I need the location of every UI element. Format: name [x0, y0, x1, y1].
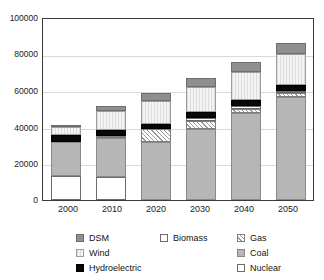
y-axis-tick-label: 60000: [0, 87, 38, 96]
legend-label-dsm: DSM: [89, 233, 109, 243]
bar-2030: [186, 78, 216, 200]
legend-column-1: DSM Wind Hydroelectric: [76, 231, 142, 276]
x-axis-tick-label: 2040: [220, 204, 268, 215]
legend-label-nuclear: Nuclear: [250, 263, 281, 273]
bar-segment-coal: [96, 138, 126, 178]
bar-2050: [276, 43, 306, 200]
legend-item-gas: Gas: [237, 231, 281, 245]
x-axis-tick-label: 2050: [264, 204, 312, 215]
bar-segment-wind: [51, 127, 81, 135]
legend-item-biomass: Biomass: [160, 231, 208, 245]
bar-segment-wind: [276, 54, 306, 85]
bar-segment-nuclear: [51, 176, 81, 200]
legend-item-coal: Coal: [237, 246, 281, 260]
plot-area: [42, 18, 314, 201]
y-axis-tick-label: 0: [0, 196, 38, 205]
x-axis-tick-label: 2030: [176, 204, 224, 215]
legend-label-gas: Gas: [250, 233, 267, 243]
bar-segment-coal: [231, 113, 261, 200]
bar-segment-wind: [186, 87, 216, 112]
bar-2040: [231, 62, 261, 200]
bar-segment-dsm: [231, 62, 261, 73]
bar-segment-gas: [141, 129, 171, 142]
bar-segment-coal: [51, 142, 81, 176]
bar-2000: [51, 125, 81, 200]
bar-segment-coal: [276, 97, 306, 200]
legend-item-hydroelectric: Hydroelectric: [76, 261, 142, 275]
y-axis-tick-label: 40000: [0, 124, 38, 133]
y-axis-tick-label: 100000: [0, 14, 38, 23]
legend-label-hydroelectric: Hydroelectric: [89, 263, 142, 273]
legend-column-3: Gas Coal Nuclear: [237, 231, 281, 276]
x-axis-tick-label: 2020: [132, 204, 180, 215]
bars-layer: [43, 19, 313, 200]
bar-segment-nuclear: [96, 177, 126, 200]
chart-legend: DSM Wind Hydroelectric Biomass Gas: [0, 231, 324, 279]
y-axis-tick-label: 80000: [0, 50, 38, 59]
legend-swatch-coal-icon: [237, 249, 245, 257]
legend-swatch-wind-icon: [76, 249, 84, 257]
legend-swatch-gas-icon: [237, 234, 245, 242]
bar-segment-wind: [231, 72, 261, 99]
legend-swatch-hydroelectric-icon: [76, 264, 84, 272]
legend-item-wind: Wind: [76, 246, 142, 260]
legend-column-2: Biomass: [160, 231, 208, 246]
bar-2020: [141, 93, 171, 200]
stacked-bar-chart: 100000 80000 60000 40000 20000 0 2000 20…: [0, 0, 324, 280]
legend-swatch-biomass-icon: [160, 234, 168, 242]
bar-segment-gas: [186, 121, 216, 129]
bar-segment-dsm: [276, 43, 306, 55]
legend-item-dsm: DSM: [76, 231, 142, 245]
bar-segment-coal: [186, 129, 216, 200]
bar-segment-dsm: [186, 78, 216, 87]
bar-segment-wind: [141, 101, 171, 125]
x-axis-tick-label: 2000: [44, 204, 92, 215]
bar-segment-dsm: [141, 93, 171, 100]
legend-label-coal: Coal: [250, 248, 269, 258]
x-axis-tick-label: 2010: [88, 204, 136, 215]
legend-label-wind: Wind: [89, 248, 110, 258]
legend-item-nuclear: Nuclear: [237, 261, 281, 275]
bar-segment-hydroelectric: [51, 135, 81, 142]
y-axis-tick-label: 20000: [0, 160, 38, 169]
legend-swatch-dsm-icon: [76, 234, 84, 242]
bar-2010: [96, 106, 126, 200]
bar-segment-coal: [141, 142, 171, 200]
legend-swatch-nuclear-icon: [237, 264, 245, 272]
legend-label-biomass: Biomass: [173, 233, 208, 243]
bar-segment-wind: [96, 111, 126, 130]
